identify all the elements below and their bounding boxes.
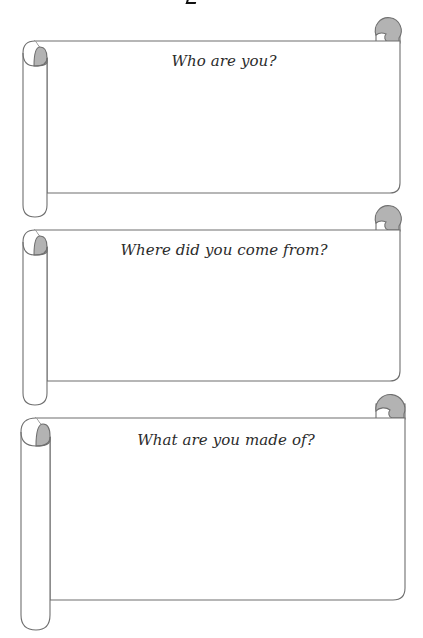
scroll-3-prompt: What are you made of?	[137, 431, 315, 449]
scroll-2-left-roll	[23, 230, 47, 405]
scroll-1-right-curl-icon	[375, 18, 401, 43]
scroll-3-right-curl-icon	[376, 395, 405, 419]
scroll-1-left-roll	[23, 41, 47, 217]
scroll-2-prompt: Where did you come from?	[120, 241, 327, 259]
scroll-3-left-roll	[21, 418, 50, 630]
scroll-1-answer-area[interactable]	[52, 75, 395, 187]
scroll-3-answer-area[interactable]	[55, 454, 400, 594]
scroll-2-answer-area[interactable]	[52, 264, 395, 375]
scroll-2-right-curl-icon	[375, 206, 401, 231]
scroll-1-prompt: Who are you?	[171, 52, 276, 70]
worksheet-page: Who are you? Where did you come from? Wh…	[0, 0, 423, 638]
